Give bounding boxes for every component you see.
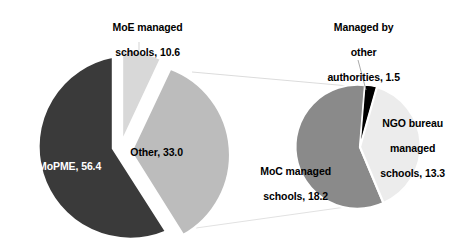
pie-of-pie-chart: MoE managed schools, 10.6 Managed by oth… (0, 0, 452, 250)
slice-label-mopme-line1: MoPME, 56.4 (38, 160, 101, 172)
slice-label-mopme: MoPME, 56.4 (18, 147, 110, 185)
slice-label-ngo-line2: managed (390, 142, 435, 154)
slice-label-managed-other: Managed by other authorities, 1.5 (302, 8, 414, 96)
slice-label-moe: MoE managed schools, 10.6 (88, 8, 196, 71)
slice-label-managed-other-line1: Managed by (334, 21, 394, 33)
slice-label-moe-line1: MoE managed (113, 21, 183, 33)
slice-label-managed-other-line3: authorities, 1.5 (327, 71, 400, 83)
slice-label-other: Other, 33.0 (110, 133, 192, 171)
slice-label-other-line1: Other, 33.0 (130, 146, 183, 158)
slice-label-managed-other-line2: other (351, 46, 377, 58)
slice-label-moc-line1: MoC managed (260, 165, 331, 177)
slice-label-moc-line2: schools, 18.2 (263, 190, 328, 202)
slice-label-moe-line2: schools, 10.6 (115, 46, 180, 58)
slice-label-ngo-line3: schools, 13.3 (380, 167, 445, 179)
slice-label-ngo: NGO bureau managed schools, 13.3 (362, 104, 452, 192)
slice-label-moc: MoC managed schools, 18.2 (238, 152, 342, 215)
slice-label-ngo-line1: NGO bureau (382, 117, 443, 129)
